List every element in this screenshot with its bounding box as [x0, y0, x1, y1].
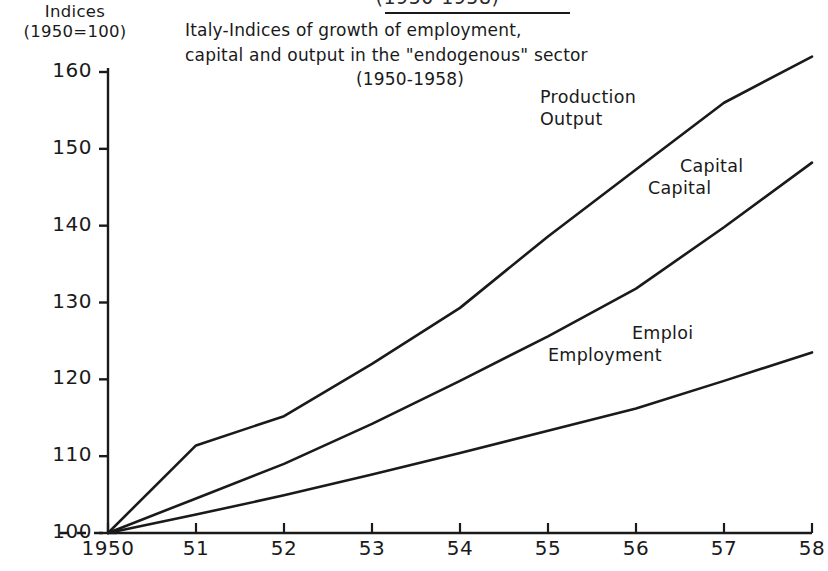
- y-tick-label: 150: [18, 135, 92, 159]
- x-tick-label: 56: [591, 536, 681, 560]
- x-tick-label: 51: [151, 536, 241, 560]
- series-label-capital-bottom: Capital: [648, 177, 743, 199]
- x-tick-label: 52: [239, 536, 329, 560]
- series-lines: [108, 57, 812, 533]
- series-line: [108, 57, 812, 533]
- x-tick-label: 57: [679, 536, 769, 560]
- x-tick-label: 1950: [63, 536, 153, 560]
- y-tick-label: 130: [18, 289, 92, 313]
- series-label-employment: Emploi Employment: [548, 322, 693, 366]
- x-tick-label: 54: [415, 536, 505, 560]
- series-label-production: Production Output: [540, 86, 636, 130]
- series-label-production-top: Production: [540, 86, 636, 108]
- series-label-capital-top: Capital: [648, 155, 743, 177]
- x-axis-ticks: [108, 523, 812, 533]
- y-tick-label: 110: [18, 442, 92, 466]
- y-tick-label: 140: [18, 212, 92, 236]
- x-tick-label: 58: [767, 536, 828, 560]
- series-label-employment-top: Emploi: [548, 322, 693, 344]
- series-label-employment-bottom: Employment: [548, 344, 693, 366]
- series-line: [108, 163, 812, 533]
- series-label-production-bottom: Output: [540, 108, 636, 130]
- y-tick-label: 160: [18, 58, 92, 82]
- x-tick-label: 53: [327, 536, 417, 560]
- axes: [60, 68, 812, 533]
- y-tick-label: 120: [18, 365, 92, 389]
- series-label-capital: Capital Capital: [648, 155, 743, 199]
- x-tick-label: 55: [503, 536, 593, 560]
